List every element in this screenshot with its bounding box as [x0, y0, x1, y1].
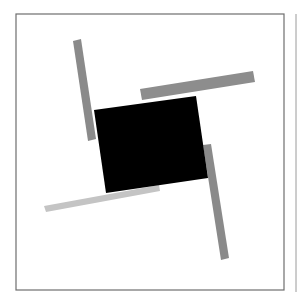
bar-top-right [140, 71, 255, 100]
abstract-composition [0, 0, 297, 305]
bar-bottom-left [44, 185, 160, 212]
figure-canvas [0, 0, 297, 305]
bar-bottom-right [203, 144, 229, 260]
bar-top-left [73, 39, 96, 141]
black-square [94, 96, 208, 193]
shapes-group [44, 39, 255, 260]
